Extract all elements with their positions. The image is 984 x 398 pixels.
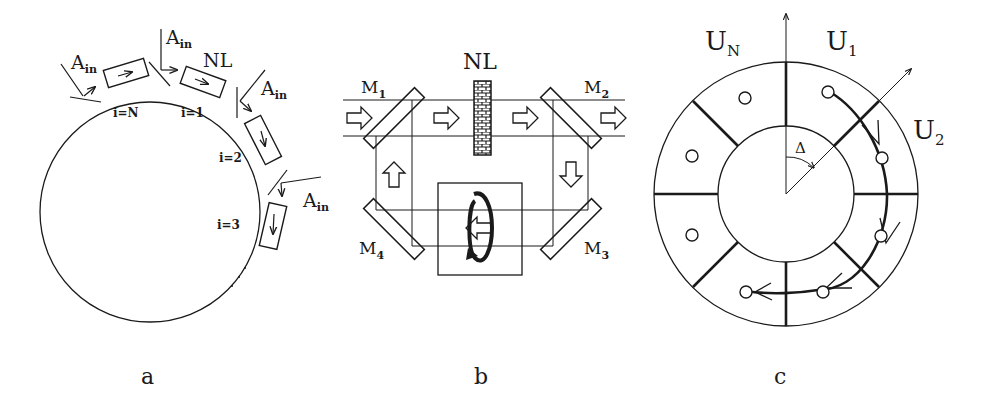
hollow-arrow-down-icon [560, 162, 582, 187]
mirror-label-m1: M1 [361, 77, 386, 101]
mirror-label-m3: M3 [584, 238, 609, 262]
cell-label-i1: i=1 [181, 106, 204, 120]
caption-a: a [141, 364, 154, 389]
cell-i2 [245, 115, 282, 164]
cell-label-i3: i=3 [217, 218, 240, 232]
cell-i3 [259, 203, 286, 250]
trajectory-path [746, 92, 887, 293]
caption-c: c [774, 364, 786, 389]
input-label-3: Ain [260, 77, 287, 102]
sector-label-un: UN [705, 26, 740, 60]
mirror-label-m2: M2 [584, 77, 609, 101]
input-label-4: Ain [302, 189, 329, 214]
input-label-2: Ain [165, 26, 192, 51]
angle-label: Δ [795, 139, 806, 157]
input-label-1: Ain [70, 51, 97, 76]
ring-circle [40, 102, 260, 322]
nonlinear-element [474, 81, 491, 155]
panel-b: M1 M2 M3 M4 NL b [343, 49, 626, 389]
hollow-arrow-right-icon [601, 107, 626, 129]
hollow-arrow-up-icon [383, 162, 405, 187]
hollow-arrow-right-icon [434, 107, 459, 129]
cell-label-i2: i=2 [219, 151, 242, 165]
caption-b: b [474, 364, 488, 389]
mirror-label-m4: M4 [359, 238, 384, 262]
cell-label-iN: i=N [113, 106, 139, 120]
cell-i1 [180, 66, 226, 97]
nonlinear-label-b: NL [463, 49, 497, 74]
panel-c: Δ UN U1 U2 c [654, 14, 944, 389]
panel-a: Ain i=N Ain NL i=1 Ain i=2 [40, 26, 329, 389]
hollow-arrow-right-icon [513, 107, 538, 129]
trajectory-arrowheads [755, 120, 900, 300]
sector-label-u2: U2 [913, 115, 944, 149]
rotated-axis-arrow [786, 69, 911, 194]
sector-label-u1: U1 [826, 26, 857, 60]
angle-arc [786, 157, 814, 168]
hollow-arrow-right-icon [347, 107, 372, 129]
nonlinear-label: NL [203, 49, 233, 71]
figure-canvas: Ain i=N Ain NL i=1 Ain i=2 [0, 0, 984, 398]
